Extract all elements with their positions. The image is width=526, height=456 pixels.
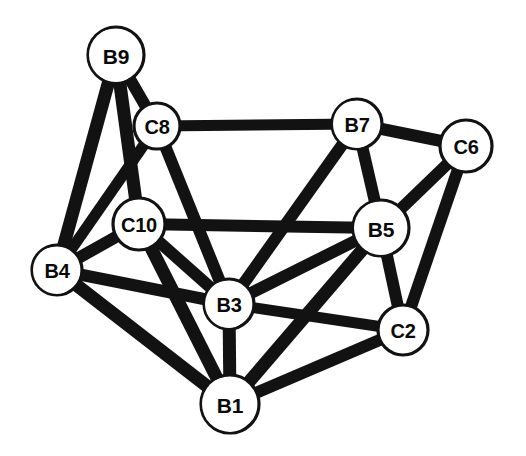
atom-node-c8[interactable]: C8 [134,103,180,149]
atom-label-b7: B7 [344,114,369,136]
atom-label-c10: C10 [121,214,157,236]
atom-label-b3: B3 [216,294,241,316]
atom-node-c2[interactable]: C2 [378,305,428,355]
molecular-structure-figure: B9C8B7C6C10B5B4B3C2B1 [0,0,526,456]
atom-label-b9: B9 [103,45,129,68]
atom-node-c10[interactable]: C10 [113,198,165,250]
structure-canvas: B9C8B7C6C10B5B4B3C2B1 [0,0,526,456]
atom-label-b4: B4 [44,260,70,282]
atom-label-b5: B5 [368,218,395,241]
atom-label-c6: C6 [453,136,478,158]
atom-label-b1: B1 [217,394,244,417]
atom-node-c6[interactable]: C6 [440,120,492,172]
bond-c10-b5 [139,224,381,228]
atom-label-c8: C8 [144,116,169,138]
bond-c8-b7 [157,124,357,126]
atom-label-c2: C2 [390,320,415,342]
